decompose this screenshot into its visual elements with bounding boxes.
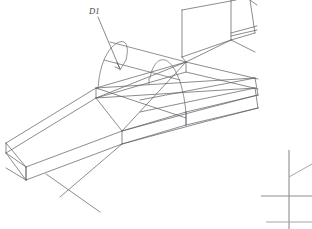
box-bottom-left-edge xyxy=(182,40,231,57)
long-diagonal-lower-left xyxy=(46,174,100,212)
long-diagonal-crossing xyxy=(60,144,122,197)
dimension-label-d1: D1 xyxy=(88,6,100,16)
box-bottom-right-edge xyxy=(231,33,255,40)
left-face-diagonal-lower xyxy=(6,153,26,180)
axis-diagonal xyxy=(289,164,312,177)
cad-drawing-canvas: D1 xyxy=(0,0,312,229)
slab-left-lower-edge xyxy=(6,168,26,180)
box-top-right-edge xyxy=(250,0,257,5)
brace-b xyxy=(96,62,186,98)
box-inner-edge-a xyxy=(231,26,257,33)
top-surface-upper-edge xyxy=(6,62,258,143)
arch-left-springline xyxy=(104,60,180,80)
box-top-left-edge xyxy=(182,0,236,10)
wireframe-drawing: D1 xyxy=(0,0,312,229)
main-solid-wireframe xyxy=(6,62,258,212)
box-base-edge xyxy=(186,40,231,62)
box-lower-right-diagonal xyxy=(231,40,255,52)
slab-bottom-edge xyxy=(26,108,258,180)
arch-left-ridge xyxy=(110,42,186,62)
box-inner-edge-b xyxy=(231,30,257,36)
coordinate-axis-icon xyxy=(261,150,312,229)
slab-top-edge xyxy=(26,95,258,167)
upper-right-box xyxy=(182,0,257,62)
box-right-vertical xyxy=(250,0,255,33)
pocket-front-left xyxy=(96,98,122,131)
right-face-upper xyxy=(186,95,258,112)
